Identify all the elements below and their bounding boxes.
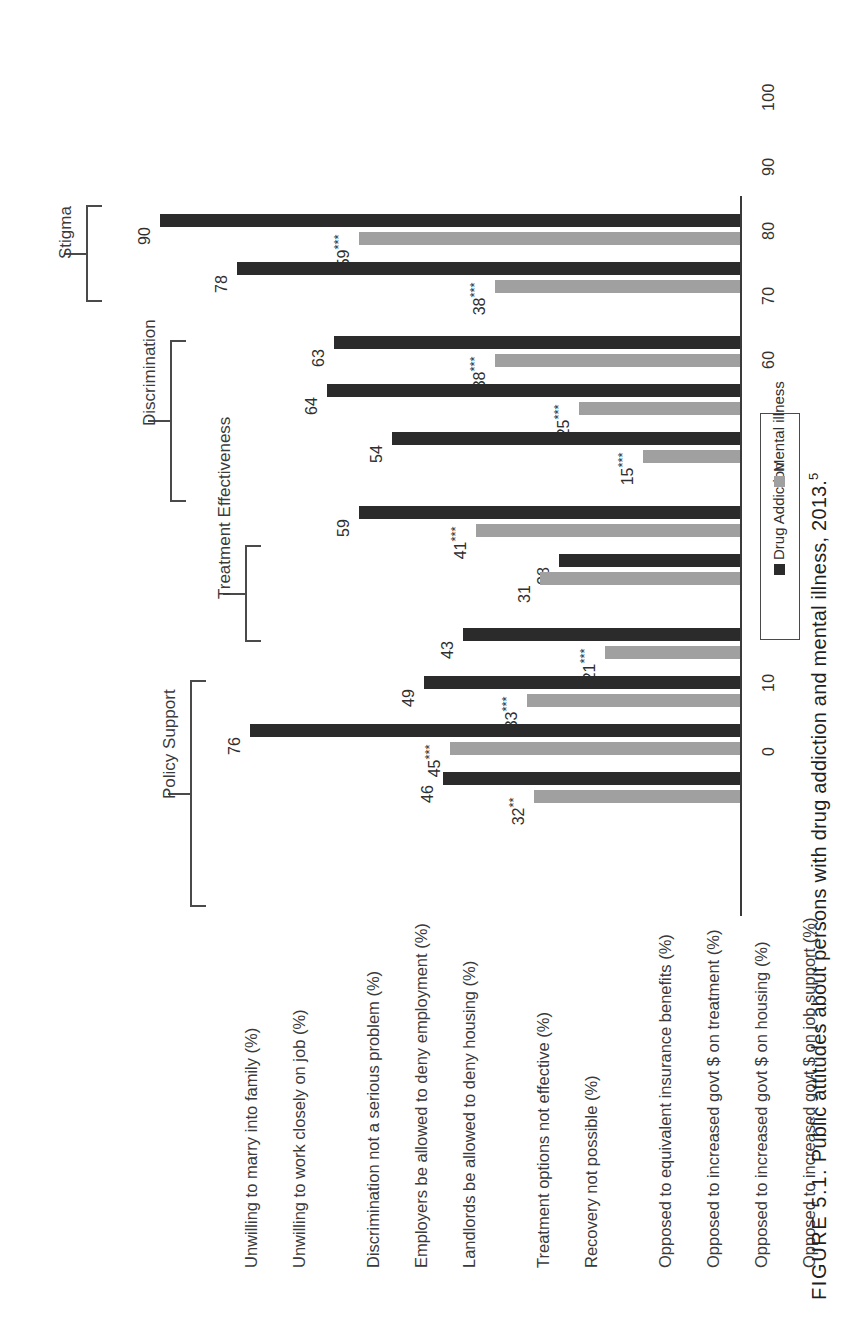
category-label: Opposed to equivalent insurance benefits…: [656, 934, 675, 1268]
category-label: Landlords be allowed to deny housing (%): [460, 961, 479, 1268]
group-bracket-label: Stigma: [56, 206, 76, 259]
bar-value-label-mental-illness: 32**: [505, 797, 527, 825]
bar-value-label-drug-addiction: 90: [136, 227, 154, 245]
bar-value-label-drug-addiction: 63: [310, 349, 328, 367]
bar-value-label-mental-illness: 41***: [447, 526, 469, 559]
bar-value-label-drug-addiction: 76: [226, 737, 244, 755]
bar-value-label-drug-addiction: 64: [303, 397, 321, 415]
bar-drug-addiction: [424, 676, 740, 689]
value-axis-line: [740, 196, 742, 916]
figure-number: FIGURE 5.1.: [808, 1168, 830, 1300]
bar-mental-illness: [534, 790, 740, 803]
bar-drug-addiction: [160, 214, 741, 227]
bar-mental-illness: [643, 450, 740, 463]
bar-mental-illness: [450, 742, 740, 755]
category-label: Unwilling to work closely on job (%): [290, 1009, 309, 1268]
axis-tick-label: 60: [760, 350, 778, 369]
bar-mental-illness: [579, 402, 740, 415]
bar-mental-illness: [495, 280, 740, 293]
figure-caption: FIGURE 5.1. Public attitudes about perso…: [806, 472, 831, 1300]
bar-value-label-drug-addiction: 49: [400, 689, 418, 707]
category-label: Recovery not possible (%): [582, 1075, 601, 1268]
bar-drug-addiction: [392, 432, 740, 445]
figure-5-1: 0102030405060708090100 9059***7838***633…: [0, 0, 858, 1325]
axis-tick-label: 0: [760, 747, 778, 756]
bar-value-label-drug-addiction: 43: [439, 641, 457, 659]
bar-value-label-mental-illness: 15***: [615, 452, 637, 485]
legend-label: Mental illness: [770, 381, 787, 472]
axis-tick-label: 80: [760, 221, 778, 240]
category-label: Opposed to increased govt $ on housing (…: [752, 941, 771, 1268]
axis-tick-label: 10: [760, 673, 778, 692]
category-label: Treatment options not effective (%): [534, 1012, 553, 1268]
bar-drug-addiction: [443, 772, 740, 785]
bar-value-label-mental-illness: 31: [516, 585, 534, 603]
axis-tick-label: 100: [760, 83, 778, 111]
axis-tick-label: 70: [760, 286, 778, 305]
legend: Drug AddictionMental illness: [760, 413, 800, 640]
bar-mental-illness: [359, 232, 740, 245]
axis-tick-label: 90: [760, 157, 778, 176]
group-bracket-label: Treatment Effectiveness: [215, 416, 235, 598]
bar-drug-addiction: [463, 628, 740, 641]
category-label: Employers be allowed to deny employment …: [412, 923, 431, 1268]
bar-mental-illness: [605, 646, 740, 659]
bar-value-label-drug-addiction: 78: [213, 275, 231, 293]
bar-drug-addiction: [250, 724, 740, 737]
bar-mental-illness: [476, 524, 740, 537]
bar-drug-addiction: [237, 262, 740, 275]
bar-drug-addiction: [327, 384, 740, 397]
legend-swatch: [774, 564, 785, 575]
legend-swatch: [774, 476, 785, 487]
bar-mental-illness: [495, 354, 740, 367]
group-bracket-label: Policy Support: [160, 689, 180, 799]
bar-mental-illness: [527, 694, 740, 707]
bar-value-label-drug-addiction: 59: [335, 519, 353, 537]
bar-value-label-mental-illness: 45***: [421, 744, 443, 777]
bar-value-label-mental-illness: 38***: [467, 282, 489, 315]
category-label: Discrimination not a serious problem (%): [364, 971, 383, 1268]
category-label: Opposed to increased govt $ on treatment…: [704, 930, 723, 1268]
bar-value-label-drug-addiction: 54: [368, 445, 386, 463]
caption-text: Public attitudes about persons with drug…: [808, 480, 830, 1162]
caption-footnote-marker: 5: [806, 472, 821, 479]
group-bracket-label: Discrimination: [140, 319, 160, 426]
bar-drug-addiction: [559, 554, 740, 567]
bar-mental-illness: [540, 572, 740, 585]
bar-drug-addiction: [359, 506, 740, 519]
bar-drug-addiction: [334, 336, 740, 349]
category-label: Unwilling to marry into family (%): [242, 1028, 261, 1268]
bar-value-label-drug-addiction: 46: [419, 785, 437, 803]
